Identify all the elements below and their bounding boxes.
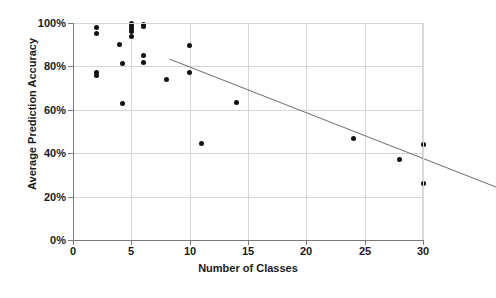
data-point [234, 100, 239, 105]
x-tick-label-30: 30 [408, 245, 438, 257]
x-tick-label-0: 0 [58, 245, 88, 257]
y-tick-label-60: 60% [4, 105, 66, 116]
data-point [141, 53, 146, 58]
data-point [120, 101, 125, 106]
data-point [94, 31, 99, 36]
gridline-x-5 [131, 23, 132, 240]
trendline [146, 46, 496, 263]
plot-frame-right [423, 23, 424, 240]
data-point [199, 141, 204, 146]
x-tick-label-5: 5 [116, 245, 146, 257]
data-point [129, 34, 134, 39]
y-tick-label-100: 100% [4, 18, 66, 29]
data-point [351, 136, 356, 141]
data-point [397, 157, 402, 162]
data-point [141, 60, 146, 65]
data-point [187, 43, 192, 48]
gridline-x-20 [306, 23, 307, 240]
gridline-x-15 [248, 23, 249, 240]
gridline-x-25 [365, 23, 366, 240]
x-axis-title: Number of Classes [73, 262, 423, 274]
plot-frame-top [73, 23, 423, 24]
data-point [94, 73, 99, 78]
gridline-x-10 [190, 23, 191, 240]
x-tick-label-10: 10 [175, 245, 205, 257]
data-point [141, 24, 146, 29]
y-tick-label-20: 20% [4, 192, 66, 203]
plot-area [73, 23, 423, 240]
data-point [164, 77, 169, 82]
data-point [117, 42, 122, 47]
data-point [129, 29, 134, 34]
y-tick-label-40: 40% [4, 148, 66, 159]
y-tick-label-0: 0% [4, 235, 66, 246]
y-tick-label-80: 80% [4, 61, 66, 72]
x-tick-label-20: 20 [291, 245, 321, 257]
y-axis-line [73, 23, 74, 241]
data-point [94, 25, 99, 30]
data-point [120, 61, 125, 66]
data-point [187, 70, 192, 75]
x-tick-label-25: 25 [350, 245, 380, 257]
x-tick-label-15: 15 [233, 245, 263, 257]
